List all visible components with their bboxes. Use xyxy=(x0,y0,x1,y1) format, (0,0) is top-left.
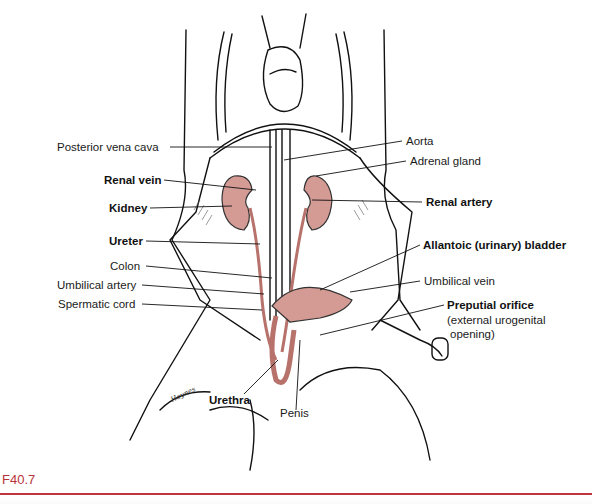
caption-rule xyxy=(0,493,592,495)
diaphragm xyxy=(210,129,360,158)
label-preputial-orifice: Preputial orifice xyxy=(447,299,534,312)
heart xyxy=(263,47,302,112)
label-preputial-orifice-note-1: (external urogenital xyxy=(447,314,545,327)
label-kidney: Kidney xyxy=(109,202,147,215)
kidney-left xyxy=(222,176,252,230)
label-preputial-orifice-note-2: opening) xyxy=(450,328,495,341)
label-renal-vein: Renal vein xyxy=(104,174,162,187)
next-line-fragment xyxy=(0,498,592,504)
label-posterior-vena-cava: Posterior vena cava xyxy=(57,141,159,154)
label-allantoic-bladder: Allantoic (urinary) bladder xyxy=(423,239,566,252)
label-spermatic-cord: Spermatic cord xyxy=(58,298,135,311)
label-ureter: Ureter xyxy=(109,235,143,248)
label-urethra: Urethra xyxy=(209,394,250,407)
label-penis: Penis xyxy=(280,407,309,420)
kidney-right xyxy=(304,176,332,230)
kidneys xyxy=(222,176,332,230)
signature: Haynes xyxy=(169,385,198,404)
label-aorta: Aorta xyxy=(406,135,434,148)
label-adrenal-gland: Adrenal gland xyxy=(410,155,481,168)
aorta xyxy=(282,130,290,300)
label-renal-artery: Renal artery xyxy=(426,196,492,209)
label-umbilical-artery: Umbilical artery xyxy=(57,279,136,292)
label-colon: Colon xyxy=(110,260,140,273)
anatomy-illustration: Haynes xyxy=(0,0,592,504)
allantoic-bladder xyxy=(272,287,352,322)
figure-id: F40.7 xyxy=(2,472,35,487)
posterior-vena-cava xyxy=(270,130,276,320)
label-umbilical-vein: Umbilical vein xyxy=(424,275,495,288)
